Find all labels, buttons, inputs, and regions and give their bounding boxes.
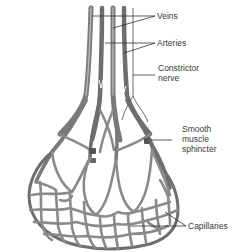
- label-smooth-muscle-sphincter: Smooth muscle sphincter: [182, 124, 217, 154]
- label-constrictor-nerve: Constrictor nerve: [158, 63, 199, 83]
- label-capillaries: Capillaries: [188, 221, 228, 231]
- constrictor-nerve-line: [133, 8, 148, 122]
- capillary-network: [29, 140, 178, 249]
- label-veins: Veins: [157, 11, 178, 21]
- label-arteries: Arteries: [157, 38, 186, 48]
